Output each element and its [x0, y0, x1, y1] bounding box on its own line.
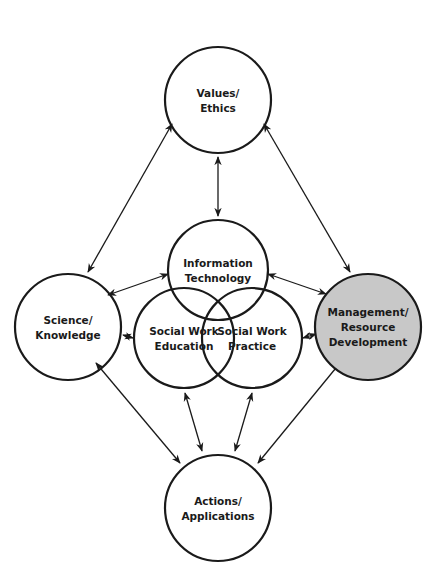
node-label: Social Work	[217, 325, 288, 337]
node-circle	[165, 47, 271, 153]
node-label: Knowledge	[35, 329, 100, 341]
node-science: Science/Knowledge	[15, 274, 121, 380]
node-circle	[168, 220, 268, 320]
node-label: Social Work	[149, 325, 220, 337]
double-arrow-swprac-actions	[235, 393, 252, 451]
edges-layer	[88, 124, 350, 463]
node-label: Technology	[185, 272, 252, 284]
node-label: Development	[329, 336, 408, 348]
node-label: Resource	[341, 321, 396, 333]
double-arrow-swed-actions	[185, 393, 202, 451]
concept-diagram: Values/EthicsInformationTechnologySocial…	[0, 0, 440, 578]
node-circle	[165, 455, 271, 561]
node-mgmt: Management/ResourceDevelopment	[315, 274, 421, 380]
node-label: Management/	[327, 306, 408, 318]
double-arrow-mgmt-actions	[258, 363, 340, 463]
node-label: Science/	[43, 314, 92, 326]
node-circle	[15, 274, 121, 380]
nodes-layer: Values/EthicsInformationTechnologySocial…	[15, 47, 421, 561]
double-arrow-science-swed	[123, 335, 133, 338]
node-swprac: Social WorkPractice	[202, 288, 302, 388]
node-label: Education	[155, 340, 214, 352]
double-arrow-science-actions	[96, 363, 180, 463]
node-swed: Social WorkEducation	[134, 288, 234, 388]
node-label: Information	[183, 257, 253, 269]
node-values: Values/Ethics	[165, 47, 271, 153]
double-arrow-values-mgmt	[264, 124, 350, 272]
double-arrow-science-infotech	[108, 274, 168, 295]
node-actions: Actions/Applications	[165, 455, 271, 561]
node-circle	[134, 288, 234, 388]
double-arrow-swprac-mgmt	[303, 334, 316, 338]
node-label: Values/	[197, 87, 240, 99]
double-arrow-values-science	[88, 124, 172, 272]
node-label: Practice	[228, 340, 276, 352]
node-label: Applications	[181, 510, 254, 522]
node-infotech: InformationTechnology	[168, 220, 268, 320]
node-circle	[202, 288, 302, 388]
node-label: Actions/	[194, 495, 242, 507]
node-label: Ethics	[200, 102, 236, 114]
double-arrow-infotech-mgmt	[268, 274, 326, 294]
